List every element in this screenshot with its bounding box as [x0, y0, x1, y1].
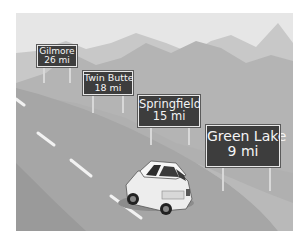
sign-post: [69, 65, 71, 83]
sign-post: [150, 125, 152, 145]
sign-distance: 15 mi: [139, 110, 199, 122]
sign-post: [92, 93, 94, 113]
distance-sign-green-lake: Green Lake 9 mi: [206, 125, 280, 167]
distance-sign-gilmore: Gilmore 26 mi: [37, 45, 77, 67]
sign-distance: 26 mi: [38, 56, 76, 65]
sign-post: [269, 165, 271, 191]
sign-post: [188, 125, 190, 145]
sign-post: [222, 165, 224, 191]
sign-post: [122, 93, 124, 113]
sign-post: [43, 65, 45, 83]
distance-sign-springfield: Springfield 15 mi: [138, 95, 200, 127]
highway-illustration: Gilmore 26 mi Twin Butte 18 mi Springfie…: [16, 13, 293, 231]
sign-destination: Green Lake: [207, 129, 279, 144]
distance-sign-twin-butte: Twin Butte 18 mi: [83, 71, 133, 95]
sign-distance: 9 mi: [207, 144, 279, 159]
sign-distance: 18 mi: [84, 83, 132, 93]
